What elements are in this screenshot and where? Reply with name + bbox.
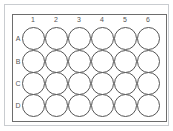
well-c5 bbox=[114, 72, 137, 95]
well-c2 bbox=[45, 72, 68, 95]
column-label-5: 5 bbox=[120, 16, 130, 24]
column-label-6: 6 bbox=[143, 16, 153, 24]
row-label-d: D bbox=[14, 102, 22, 110]
well-b4 bbox=[91, 50, 114, 73]
well-d4 bbox=[91, 94, 114, 117]
column-label-4: 4 bbox=[97, 16, 107, 24]
well-a3 bbox=[68, 27, 91, 50]
column-label-2: 2 bbox=[51, 16, 61, 24]
well-a1 bbox=[22, 27, 45, 50]
row-label-a: A bbox=[14, 35, 22, 43]
column-label-3: 3 bbox=[74, 16, 84, 24]
well-d5 bbox=[114, 94, 137, 117]
well-c6 bbox=[137, 72, 160, 95]
well-c4 bbox=[91, 72, 114, 95]
well-d1 bbox=[22, 94, 45, 117]
row-label-c: C bbox=[14, 80, 22, 88]
well-d2 bbox=[45, 94, 68, 117]
well-c3 bbox=[68, 72, 91, 95]
well-a2 bbox=[45, 27, 68, 50]
well-d3 bbox=[68, 94, 91, 117]
well-b1 bbox=[22, 50, 45, 73]
well-b2 bbox=[45, 50, 68, 73]
well-a6 bbox=[137, 27, 160, 50]
well-b5 bbox=[114, 50, 137, 73]
well-b3 bbox=[68, 50, 91, 73]
well-c1 bbox=[22, 72, 45, 95]
well-a4 bbox=[91, 27, 114, 50]
column-label-1: 1 bbox=[28, 16, 38, 24]
row-label-b: B bbox=[14, 58, 22, 66]
well-a5 bbox=[114, 27, 137, 50]
well-b6 bbox=[137, 50, 160, 73]
well-d6 bbox=[137, 94, 160, 117]
